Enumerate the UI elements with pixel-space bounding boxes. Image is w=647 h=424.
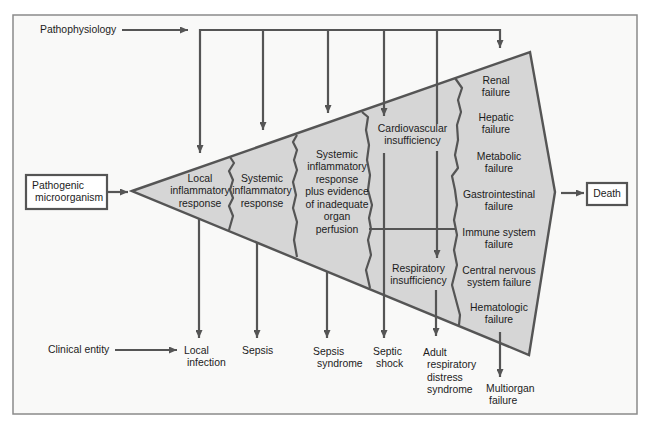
clinical-adult-respiratory-distress-syndrome: Adult respiratory distress syndrome	[423, 347, 476, 397]
organ-failure-metabolic: Metabolic failure	[449, 151, 549, 176]
sepsis-pathophysiology-diagram: Pathophysiology Clinical entity Pathogen…	[0, 0, 647, 424]
clinical-septic-shock: Septic shock	[373, 346, 403, 371]
organ-failure-gastrointestinal: Gastrointestinal failure	[449, 189, 549, 214]
organ-failure-central-nervous-system: Central nervous system failure	[449, 265, 549, 290]
clinical-multiorgan-failure: Multiorgan failure	[486, 383, 535, 408]
death-label: Death	[587, 188, 627, 201]
organ-failure-hepatic: Hepatic failure	[446, 112, 546, 137]
organ-failure-hematologic: Hematologic failure	[449, 302, 549, 327]
pathophysiology-label: Pathophysiology	[40, 24, 116, 37]
organ-failure-renal: Renal failure	[446, 75, 546, 100]
clinical-sepsis: Sepsis	[242, 345, 273, 358]
clinical-entity-label: Clinical entity	[48, 344, 109, 357]
clinical-local-infection: Local infection	[184, 345, 226, 370]
stage-inadequate-organ-perfusion: Systemic inflammatory response plus evid…	[287, 149, 387, 237]
clinical-sepsis-syndrome: Sepsis syndrome	[313, 346, 363, 371]
organ-failure-immune-system: Immune system failure	[449, 227, 549, 252]
pathogenic-microorganism-label: Pathogenic microorganism	[32, 180, 103, 205]
